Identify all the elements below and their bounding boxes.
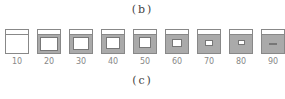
box-item-90: 90 [261,29,285,66]
box-lid [198,30,220,35]
box-hole [73,37,89,50]
box-item-60: 60 [165,29,189,66]
box-hole [106,37,120,49]
box-shape [37,29,61,54]
box-item-20: 20 [37,29,61,66]
box-label: 10 [5,57,29,66]
box-hole [40,37,58,51]
box-hole [139,37,151,48]
caption-c: (c) [0,74,285,87]
box-shape [69,29,93,54]
box-hole [172,39,182,47]
box-label: 80 [229,57,253,66]
box-label: 70 [197,57,221,66]
caption-b: (b) [0,3,285,16]
box-item-40: 40 [101,29,125,66]
box-sequence: 102030405060708090 [0,29,285,69]
box-lid [166,30,188,35]
box-lid [134,30,156,35]
box-shape [101,29,125,54]
box-hole [6,35,28,53]
box-label: 40 [101,57,125,66]
box-shape [5,29,29,54]
box-hole [238,40,245,45]
box-shape [197,29,221,54]
box-item-70: 70 [197,29,221,66]
box-lid [70,30,92,35]
box-shape [165,29,189,54]
box-label: 20 [37,57,61,66]
box-label: 90 [261,57,285,66]
box-lid [102,30,124,35]
box-shape [229,29,253,54]
box-lid [230,30,252,35]
box-label: 60 [165,57,189,66]
box-lid [38,30,60,35]
box-shape [261,29,285,54]
box-item-80: 80 [229,29,253,66]
box-lid [262,30,284,35]
box-shape [133,29,157,54]
box-item-50: 50 [133,29,157,66]
box-lid [6,30,28,35]
box-label: 50 [133,57,157,66]
box-item-10: 10 [5,29,29,66]
box-hole [269,43,277,45]
box-label: 30 [69,57,93,66]
box-item-30: 30 [69,29,93,66]
box-hole [205,40,213,46]
